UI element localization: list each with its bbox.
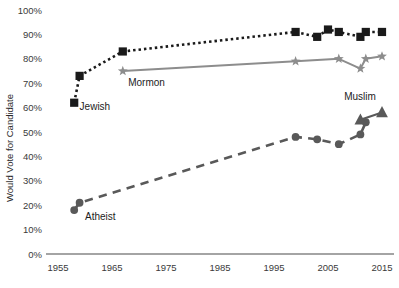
- series-line-jewish: [74, 30, 382, 103]
- data-point-atheist: [357, 131, 365, 139]
- series-label-mormon: Mormon: [128, 77, 165, 88]
- y-axis-tick-label: 80%: [23, 53, 43, 64]
- data-point-jewish: [70, 99, 78, 107]
- y-axis-tick-label: 20%: [23, 200, 43, 211]
- data-point-jewish: [335, 28, 343, 36]
- x-axis-tick-label: 1975: [155, 262, 176, 273]
- y-axis-tick-label: 90%: [23, 29, 43, 40]
- y-axis-tick-label: 70%: [23, 78, 43, 89]
- x-axis-tick-label: 1965: [101, 262, 122, 273]
- data-point-atheist: [70, 206, 78, 214]
- y-axis-title: Would Vote for Candidate: [4, 94, 15, 202]
- x-axis-tick-label: 1995: [263, 262, 284, 273]
- data-point-mormon: [355, 63, 365, 72]
- x-axis-tick-label: 2005: [317, 262, 338, 273]
- x-axis-tick-label: 1955: [47, 262, 68, 273]
- y-axis-tick-labels: 0%10%20%30%40%50%60%70%80%90%100%: [18, 5, 43, 260]
- data-point-jewish: [362, 28, 370, 36]
- series-label-atheist: Atheist: [85, 211, 116, 222]
- vote-for-candidate-line-chart: Would Vote for Candidate 0%10%20%30%40%5…: [0, 0, 399, 288]
- chart-container: Would Vote for Candidate 0%10%20%30%40%5…: [0, 0, 399, 288]
- y-axis-tick-label: 40%: [23, 151, 43, 162]
- data-point-jewish: [378, 28, 386, 36]
- data-point-atheist: [76, 199, 84, 207]
- data-point-jewish: [313, 33, 321, 41]
- data-point-jewish: [292, 28, 300, 36]
- x-axis-tick-labels: 1955196519751985199520052015: [47, 262, 392, 273]
- x-axis-tick-label: 2015: [371, 262, 392, 273]
- y-axis-tick-label: 10%: [23, 224, 43, 235]
- data-point-atheist: [335, 140, 343, 148]
- data-point-muslim: [376, 106, 388, 117]
- data-point-mormon: [291, 56, 301, 65]
- series-inline-labels: JewishMormonAtheistMuslim: [80, 77, 376, 222]
- data-point-jewish: [324, 25, 332, 33]
- series-label-jewish: Jewish: [80, 101, 111, 112]
- data-point-mormon: [361, 54, 371, 63]
- y-axis-tick-label: 100%: [18, 5, 43, 16]
- data-point-atheist: [313, 135, 321, 143]
- data-point-jewish: [76, 72, 84, 80]
- data-point-mormon: [377, 51, 387, 60]
- series-lines-group: [74, 30, 382, 211]
- y-axis-tick-label: 0%: [28, 249, 42, 260]
- data-point-mormon: [118, 66, 128, 75]
- series-label-muslim: Muslim: [344, 91, 376, 102]
- x-axis-tick-label: 1985: [209, 262, 230, 273]
- y-axis-tick-label: 50%: [23, 127, 43, 138]
- data-point-jewish: [119, 47, 127, 55]
- series-line-atheist: [74, 122, 366, 210]
- y-axis-tick-label: 60%: [23, 102, 43, 113]
- data-point-mormon: [334, 54, 344, 63]
- y-axis-tick-label: 30%: [23, 175, 43, 186]
- data-point-atheist: [292, 133, 300, 141]
- series-line-mormon: [123, 56, 382, 71]
- y-axis-title-text: Would Vote for Candidate: [4, 94, 15, 202]
